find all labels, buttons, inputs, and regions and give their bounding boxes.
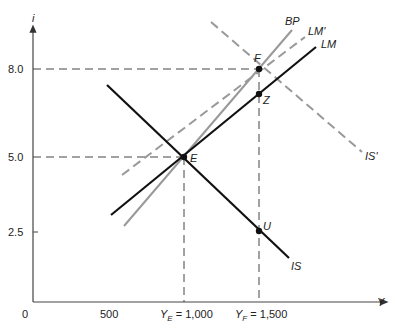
point-z-label: Z [262,94,271,106]
point-z [256,91,262,97]
is-label: IS [291,260,302,272]
is-prime-label: IS' [365,150,378,162]
x-tick-ye: YE = 1,000 [160,308,213,323]
bp-label: BP [285,15,300,27]
point-f [256,66,262,72]
y-tick-2-5: 2.5 [8,226,23,238]
lm-prime-label: LM' [308,25,326,37]
y-tick-8: 8.0 [8,63,23,75]
x-tick-500: 500 [100,308,118,320]
x-tick-yf: YF = 1,500 [235,308,287,323]
point-e [181,154,187,160]
lm-prime-curve [122,37,305,175]
is-lm-bp-chart: i Y 0 8.0 5.0 2.5 500 YE = 1,000 YF = 1,… [0,0,395,330]
y-axis-label: i [32,12,35,24]
point-u-label: U [263,220,271,232]
lm-curve [111,47,316,215]
point-e-label: E [190,152,198,164]
origin-label: 0 [22,308,28,320]
lm-label: LM [321,38,337,50]
y-tick-5: 5.0 [8,151,23,163]
point-u [256,228,262,234]
bp-curve [124,30,292,226]
is-prime-curve [211,22,362,152]
point-f-label: F [254,52,262,64]
x-axis-label: Y [377,296,385,308]
